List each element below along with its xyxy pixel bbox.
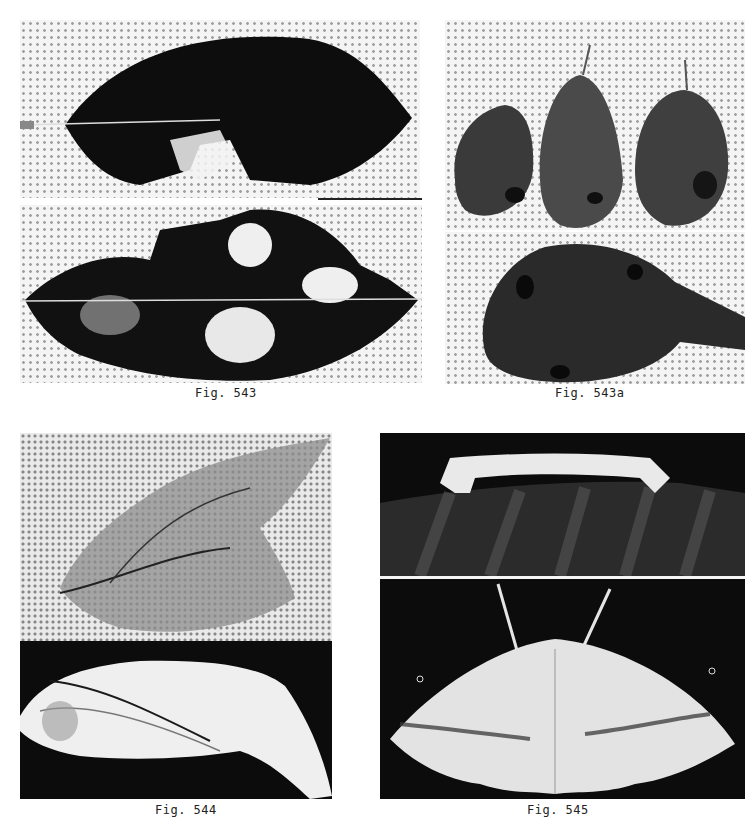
fig-543-divider-line <box>318 198 422 200</box>
fig-545-top-photo <box>380 433 745 576</box>
pear-fruits-illustration <box>445 20 745 230</box>
fig-543a-top-photo <box>445 20 745 230</box>
inchworm-on-leaf-illustration <box>380 433 745 576</box>
fig-543-caption: Fig. 543 <box>195 386 257 400</box>
fig-545-bottom-photo <box>380 579 745 799</box>
fig-543-top-photo <box>20 20 420 198</box>
fig-544-caption: Fig. 544 <box>155 803 217 817</box>
folded-leaf-illustration <box>20 641 332 799</box>
rolled-leaf-illustration <box>20 433 332 641</box>
pear-closeup-illustration <box>445 232 745 384</box>
fig-544-top-photo <box>20 433 332 641</box>
moth-illustration <box>380 579 745 799</box>
fig-543-bottom-photo <box>20 205 422 383</box>
damaged-leaf-illustration <box>20 20 420 198</box>
fig-543a-bottom-photo <box>445 232 745 384</box>
fig-544-bottom-photo <box>20 641 332 799</box>
fig-543a-caption: Fig. 543a <box>555 386 625 400</box>
damaged-leaf-illustration <box>20 205 422 383</box>
fig-545-caption: Fig. 545 <box>527 803 589 817</box>
